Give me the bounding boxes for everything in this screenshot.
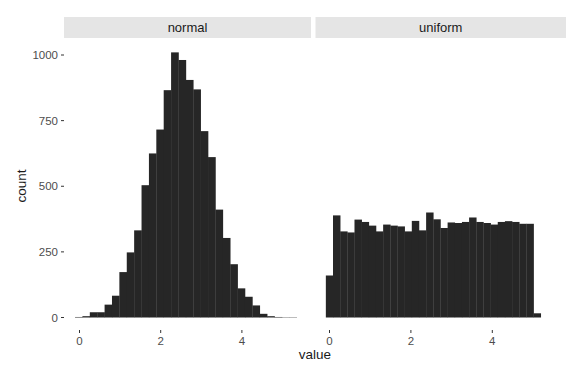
histogram-bar bbox=[215, 210, 223, 318]
histogram-bar bbox=[105, 305, 113, 318]
histogram-bar bbox=[512, 222, 519, 318]
histogram-bar bbox=[333, 215, 340, 317]
histogram-bar bbox=[462, 222, 469, 318]
histogram-bar bbox=[440, 228, 447, 318]
histogram-bar bbox=[127, 252, 135, 317]
histogram-bar bbox=[433, 219, 440, 317]
histogram-bar bbox=[245, 297, 253, 318]
histogram-bar bbox=[252, 305, 260, 317]
histogram-bar bbox=[397, 226, 404, 317]
x-tick-label: 4 bbox=[489, 335, 496, 347]
y-axis-title: count bbox=[14, 169, 29, 202]
histogram-bar bbox=[134, 230, 142, 317]
histogram-bars bbox=[326, 213, 541, 318]
x-axis-title: value bbox=[299, 347, 331, 362]
histogram-bar bbox=[534, 313, 541, 317]
histogram-bar bbox=[142, 185, 150, 317]
histogram-bar bbox=[230, 264, 238, 317]
histogram-bar bbox=[491, 225, 498, 318]
histogram-bar bbox=[223, 238, 231, 318]
histogram-bar bbox=[201, 131, 209, 317]
y-tick-label: 0 bbox=[52, 312, 58, 324]
histogram-bar bbox=[362, 222, 369, 318]
histogram-bar bbox=[426, 213, 433, 318]
histogram-bar bbox=[208, 157, 216, 317]
x-tick-label: 2 bbox=[408, 335, 414, 347]
y-tick-label: 750 bbox=[39, 115, 58, 127]
histogram-bar bbox=[326, 276, 333, 318]
histogram-bar bbox=[82, 316, 90, 317]
histogram-bar bbox=[505, 221, 512, 317]
histogram-bar bbox=[376, 231, 383, 317]
y-tick-label: 500 bbox=[39, 180, 58, 192]
histogram-bar bbox=[469, 217, 476, 317]
facet-strip-label: normal bbox=[168, 20, 208, 35]
y-axis: 02505007501000 bbox=[32, 49, 64, 324]
histogram-bar bbox=[526, 224, 533, 318]
histogram-bar bbox=[186, 80, 194, 318]
histogram-bar bbox=[498, 222, 505, 318]
histogram-bar bbox=[90, 312, 98, 317]
histogram-chart: normal024uniform024 02505007501000 count… bbox=[0, 0, 569, 377]
histogram-bar bbox=[267, 316, 275, 317]
x-tick-label: 4 bbox=[239, 335, 246, 347]
histogram-bar bbox=[171, 52, 179, 317]
y-tick-label: 250 bbox=[39, 246, 58, 258]
histogram-bar bbox=[369, 226, 376, 318]
histogram-bar bbox=[519, 224, 526, 318]
histogram-bar bbox=[97, 312, 105, 317]
facet-panel-uniform: uniform024 bbox=[316, 17, 567, 347]
histogram-bar bbox=[448, 222, 455, 317]
histogram-bar bbox=[412, 221, 419, 318]
histogram-bar bbox=[347, 232, 354, 317]
histogram-bar bbox=[383, 225, 390, 318]
x-tick-label: 0 bbox=[76, 335, 82, 347]
facet-strip-label: uniform bbox=[419, 20, 462, 35]
y-tick-label: 1000 bbox=[32, 49, 58, 61]
histogram-bar bbox=[164, 90, 172, 317]
facet-panel-normal: normal024 bbox=[64, 17, 311, 347]
x-tick-label: 0 bbox=[326, 335, 332, 347]
histogram-bar bbox=[112, 296, 120, 318]
histogram-bar bbox=[275, 317, 283, 318]
histogram-bar bbox=[419, 230, 426, 317]
histogram-bar bbox=[156, 130, 164, 318]
facet-panels: normal024uniform024 bbox=[64, 17, 566, 347]
histogram-bar bbox=[483, 223, 490, 318]
x-tick-label: 2 bbox=[157, 335, 163, 347]
histogram-bar bbox=[238, 288, 246, 317]
histogram-bar bbox=[193, 89, 201, 317]
histogram-bar bbox=[75, 317, 83, 318]
histogram-bar bbox=[149, 153, 157, 317]
histogram-bar bbox=[354, 220, 361, 318]
histogram-bar bbox=[119, 272, 127, 317]
histogram-bar bbox=[178, 60, 186, 318]
histogram-bar bbox=[390, 226, 397, 318]
histogram-bar bbox=[340, 231, 347, 317]
histogram-bar bbox=[476, 222, 483, 318]
histogram-bar bbox=[455, 223, 462, 318]
histogram-bar bbox=[260, 314, 268, 318]
histogram-bar bbox=[405, 231, 412, 317]
